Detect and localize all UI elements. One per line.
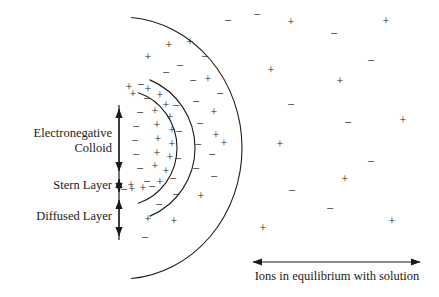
negative-ion: − (194, 137, 201, 152)
positive-ion: + (221, 136, 228, 150)
positive-ion: + (166, 38, 173, 52)
positive-ion: + (342, 172, 349, 186)
negative-ion: − (132, 147, 139, 162)
negative-ion: − (172, 98, 179, 113)
negative-ion: − (208, 147, 215, 162)
positive-ion: + (152, 104, 159, 118)
negative-ion: − (155, 197, 162, 212)
negative-ion: − (169, 171, 176, 186)
negative-ion: − (172, 187, 179, 202)
negative-ion: − (367, 53, 374, 68)
negative-ion: − (175, 124, 182, 139)
negative-ion: − (131, 133, 138, 148)
negative-ion: − (189, 73, 196, 88)
positive-ion: + (145, 50, 152, 64)
positive-ion: + (152, 159, 159, 173)
negative-ion: − (210, 169, 217, 184)
negative-ion: − (288, 183, 295, 198)
negative-ion: − (201, 49, 208, 64)
positive-ion: + (167, 150, 174, 164)
positive-ion: + (213, 128, 220, 142)
negative-ion: − (344, 115, 351, 130)
negative-ion: − (120, 182, 127, 197)
positive-ion: + (171, 214, 178, 228)
negative-ion: − (192, 161, 199, 176)
negative-ion: − (148, 179, 155, 194)
positive-ion: + (140, 181, 147, 195)
negative-ion: − (141, 230, 148, 245)
positive-ion: + (383, 14, 390, 28)
negative-ion: − (326, 201, 333, 216)
positive-ion: + (260, 221, 267, 235)
negative-ion: − (287, 97, 294, 112)
negative-ion: − (192, 94, 199, 109)
positive-ion: + (128, 178, 135, 192)
positive-ion: + (155, 132, 162, 146)
positive-ion: + (154, 118, 161, 132)
negative-ion: − (367, 154, 374, 169)
label-stern-layer: Stern Layer (8, 178, 112, 193)
positive-ion: + (337, 74, 344, 88)
positive-ion: + (268, 63, 275, 77)
positive-ion: + (389, 214, 396, 228)
negative-ion: − (137, 77, 144, 92)
negative-ion: − (216, 86, 223, 101)
negative-ion: − (224, 13, 231, 28)
positive-ion: + (157, 175, 164, 189)
negative-ion: − (132, 119, 139, 134)
positive-ion: + (126, 80, 133, 94)
negative-ion: − (162, 65, 169, 80)
caption-ions-in-equilibrium: Ions in equilibrium with solution (239, 269, 435, 284)
positive-ion: + (145, 82, 152, 96)
label-electronegative-colloid: Electronegative Colloid (8, 126, 112, 157)
negative-ion: − (176, 58, 183, 73)
negative-ion: − (196, 116, 203, 131)
negative-ion: − (136, 105, 143, 120)
double-layer-figure: −−−−−−−+++++++++++++++++++−−−−−−−+++−−−+… (0, 0, 439, 297)
positive-ion: + (400, 113, 407, 127)
negative-ion: − (174, 151, 181, 166)
positive-ion: + (187, 35, 194, 49)
positive-ion: + (277, 137, 284, 151)
positive-ion: + (211, 105, 218, 119)
negative-ion: − (253, 7, 260, 22)
positive-ion: + (154, 146, 161, 160)
positive-ion: + (205, 72, 212, 86)
positive-ion: + (145, 212, 152, 226)
positive-ion: + (288, 15, 295, 29)
label-diffused-layer: Diffused Layer (8, 209, 112, 224)
negative-ion: − (330, 26, 337, 41)
positive-ion: + (198, 189, 205, 203)
